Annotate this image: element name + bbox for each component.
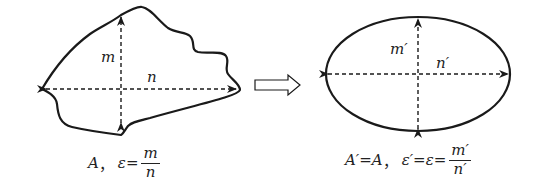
epsilon-eq: ε′=ε= bbox=[402, 151, 447, 169]
fraction-denominator: n bbox=[144, 164, 158, 181]
irregular-shape bbox=[42, 7, 240, 135]
area-symbol: A bbox=[88, 154, 99, 172]
caption-separator: ， bbox=[99, 153, 114, 174]
label-m: m bbox=[101, 50, 115, 65]
label-n-prime: n′ bbox=[436, 56, 449, 71]
label-m-prime: m′ bbox=[390, 42, 408, 57]
fraction-numerator: m′ bbox=[449, 143, 471, 161]
ratio-fraction: m′ n′ bbox=[449, 143, 471, 178]
hollow-right-arrow-icon bbox=[255, 75, 300, 95]
right-caption: A′=A ， ε′=ε= m′ n′ bbox=[345, 143, 471, 178]
fraction-denominator: n′ bbox=[452, 161, 469, 178]
caption-separator: ， bbox=[383, 150, 398, 171]
fraction-numerator: m bbox=[141, 146, 159, 164]
left-caption: A ， ε= m n bbox=[88, 146, 160, 181]
label-n: n bbox=[147, 70, 157, 85]
epsilon-eq: ε= bbox=[118, 154, 139, 172]
ratio-fraction: m n bbox=[141, 146, 159, 181]
area-equality: A′=A bbox=[345, 151, 383, 169]
